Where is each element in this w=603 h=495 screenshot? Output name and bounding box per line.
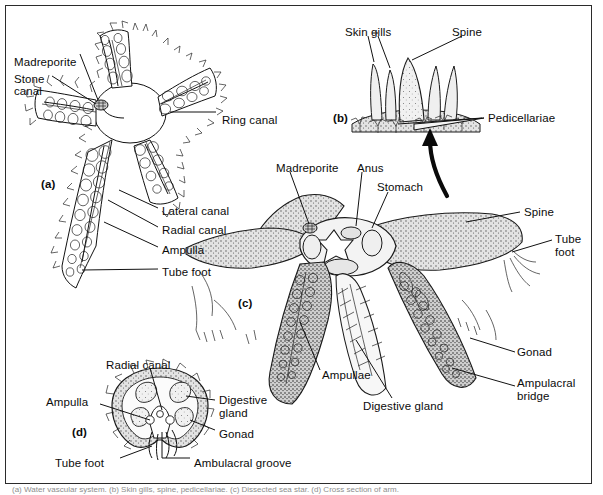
label-spine-b: Spine xyxy=(452,26,482,39)
label-madreporite-a: Madreporite xyxy=(14,56,76,69)
label-digestive-gland-c: Digestive gland xyxy=(363,400,443,413)
label-radial-canal-a: Radial canal xyxy=(162,224,227,237)
panel-d-artwork xyxy=(100,359,215,460)
label-ambulacral-groove: Ambulacral groove xyxy=(194,457,292,470)
figure-plate: Madreporite Stone canal Ring canal Later… xyxy=(0,0,603,495)
label-radial-canal-d: Radial canal xyxy=(106,359,171,372)
label-gonad-c: Gonad xyxy=(517,346,552,359)
label-ampulla-d: Ampulla xyxy=(46,396,88,409)
label-ampulacral-l1: Ampulacral xyxy=(517,377,576,390)
label-tube-foot-d: Tube foot xyxy=(55,457,104,470)
figure-artwork xyxy=(0,0,603,495)
figure-caption-sliver: (a) Water vascular system. (b) Skin gill… xyxy=(12,486,592,494)
label-stone-canal-l1: Stone xyxy=(14,73,45,86)
label-ampulla-a: Ampulla xyxy=(162,244,204,257)
panel-tag-b: (b) xyxy=(333,112,348,125)
label-tube-foot-c-l1: Tube xyxy=(555,233,581,246)
panel-tag-d: (d) xyxy=(72,426,87,439)
label-ampulacral-l2: bridge xyxy=(517,390,550,403)
label-stone-canal-l2: canal xyxy=(14,85,42,98)
label-lateral-canal: Lateral canal xyxy=(162,205,229,218)
label-skin-gills: Skin gills xyxy=(345,26,391,39)
label-tube-foot-c-l2: foot xyxy=(555,246,575,259)
label-tube-foot-a: Tube foot xyxy=(162,266,211,279)
label-anus: Anus xyxy=(357,162,384,175)
label-stomach: Stomach xyxy=(377,181,423,194)
label-gonad-d: Gonad xyxy=(219,428,254,441)
panel-tag-c: (c) xyxy=(238,297,252,310)
label-pedicellariae: Pedicellariae xyxy=(488,112,555,125)
panel-tag-a: (a) xyxy=(41,178,55,191)
label-madreporite-c: Madreporite xyxy=(276,162,338,175)
label-spine-c: Spine xyxy=(524,206,554,219)
label-ampullae: Ampullae xyxy=(322,369,371,382)
label-digestive-gland-d-l2: gland xyxy=(219,407,248,420)
label-digestive-gland-d-l1: Digestive xyxy=(219,394,267,407)
label-ring-canal: Ring canal xyxy=(222,114,277,127)
